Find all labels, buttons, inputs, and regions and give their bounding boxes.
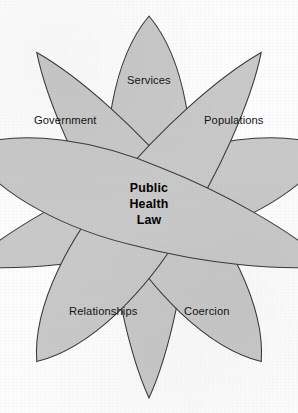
center-label-line-1: Public: [110, 181, 188, 197]
public-health-law-venn-figure: Services Populations Coercion Relationsh…: [0, 0, 298, 413]
petal-label-relationships: Relationships: [69, 305, 137, 318]
petal-label-populations: Populations: [204, 114, 264, 127]
center-label-line-3: Law: [110, 213, 188, 229]
petal-label-services: Services: [127, 74, 171, 87]
petal-label-coercion: Coercion: [184, 305, 230, 318]
center-label-public-health-law: Public Health Law: [110, 181, 188, 229]
center-label-line-2: Health: [110, 197, 188, 213]
petal-label-government: Government: [34, 114, 97, 127]
